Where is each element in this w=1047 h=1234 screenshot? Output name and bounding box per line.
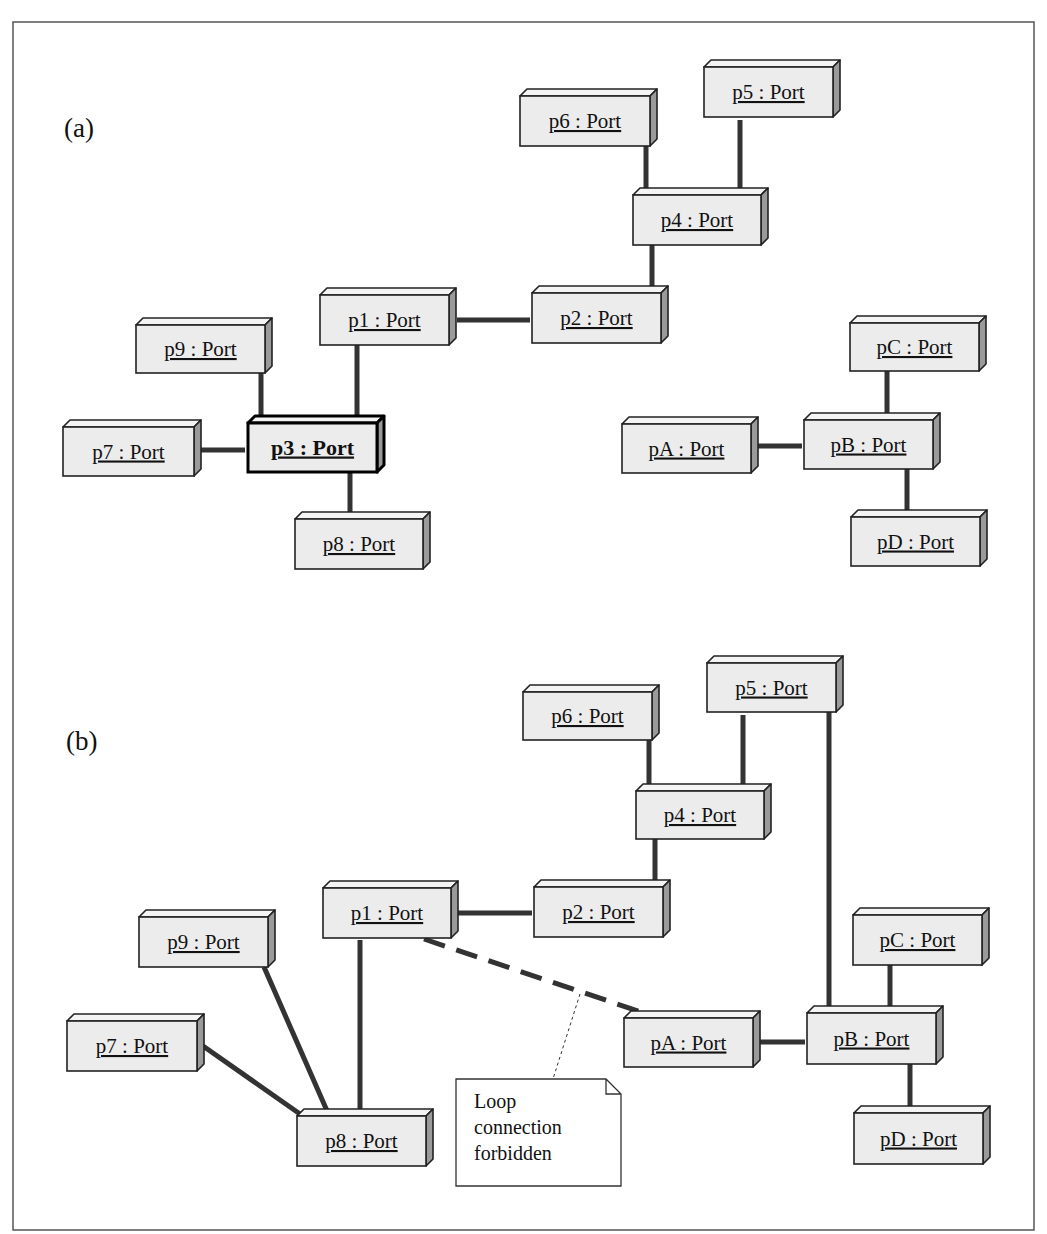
note-loop-forbidden[interactable]: Loopconnectionforbidden (456, 994, 621, 1186)
node-side-face (980, 510, 987, 566)
panel-a: (a)p6 : Portp5 : Portp4 : Portp2 : Portp… (63, 60, 987, 569)
note-text-line: connection (474, 1116, 562, 1138)
node-label: p7 : Port (96, 1034, 169, 1058)
node-side-face (197, 1014, 204, 1071)
node-label: pA : Port (651, 1031, 727, 1055)
node-side-face (933, 413, 940, 469)
panel-label: (a) (64, 113, 94, 143)
node-label: p3 : Port (271, 435, 355, 460)
node-side-face (833, 60, 840, 117)
node-label: p2 : Port (560, 306, 633, 330)
node-label: pD : Port (877, 530, 954, 554)
port-node-p8[interactable]: p8 : Port (297, 1109, 433, 1166)
link-p7-p8[interactable] (203, 1046, 300, 1114)
port-node-p3[interactable]: p3 : Port (248, 416, 384, 472)
node-side-face (661, 286, 668, 343)
node-side-face (650, 89, 657, 146)
note-anchor-line (553, 994, 580, 1079)
node-side-face (426, 1109, 433, 1166)
node-label: pB : Port (831, 433, 907, 457)
port-node-p2[interactable]: p2 : Port (534, 880, 670, 937)
node-top-face (807, 1006, 943, 1013)
node-side-face (451, 881, 458, 938)
node-side-face (751, 417, 758, 473)
node-label: p8 : Port (323, 532, 396, 556)
node-label: pA : Port (649, 437, 725, 461)
port-node-p4[interactable]: p4 : Port (636, 784, 771, 839)
port-node-pC[interactable]: pC : Port (850, 316, 986, 371)
port-node-p7[interactable]: p7 : Port (63, 420, 201, 476)
node-label: p8 : Port (325, 1129, 398, 1153)
node-label: p9 : Port (167, 930, 240, 954)
port-node-p8[interactable]: p8 : Port (295, 512, 430, 569)
port-node-pA[interactable]: pA : Port (624, 1011, 760, 1067)
node-label: pC : Port (880, 928, 956, 952)
node-top-face (850, 316, 986, 323)
node-top-face (851, 510, 987, 517)
node-label: p6 : Port (549, 109, 622, 133)
node-label: pD : Port (880, 1127, 957, 1151)
port-node-pA[interactable]: pA : Port (622, 417, 758, 473)
node-top-face (323, 881, 458, 888)
node-side-face (265, 318, 272, 373)
port-node-p5[interactable]: p5 : Port (707, 656, 843, 712)
node-side-face (753, 1011, 760, 1067)
port-node-pC[interactable]: pC : Port (853, 908, 989, 965)
port-node-pD[interactable]: pD : Port (851, 510, 987, 566)
node-side-face (836, 656, 843, 712)
node-label: p5 : Port (732, 80, 805, 104)
node-top-face (67, 1014, 204, 1021)
node-top-face (532, 286, 668, 293)
port-node-p2[interactable]: p2 : Port (532, 286, 668, 343)
panel-label: (b) (66, 726, 97, 756)
node-label: p4 : Port (664, 803, 737, 827)
uml-object-diagram: (a)p6 : Portp5 : Portp4 : Portp2 : Portp… (0, 0, 1047, 1234)
port-node-p9[interactable]: p9 : Port (136, 318, 272, 373)
node-top-face (804, 413, 940, 420)
node-top-face (854, 1106, 990, 1113)
node-side-face (982, 908, 989, 965)
node-top-face (633, 188, 768, 195)
node-side-face (268, 910, 275, 967)
node-label: p2 : Port (562, 900, 635, 924)
port-node-p4[interactable]: p4 : Port (633, 188, 768, 245)
port-node-p6[interactable]: p6 : Port (523, 685, 659, 740)
node-top-face (636, 784, 771, 791)
port-node-p7[interactable]: p7 : Port (67, 1014, 204, 1071)
node-side-face (979, 316, 986, 371)
node-top-face (320, 288, 456, 295)
port-node-pD[interactable]: pD : Port (854, 1106, 990, 1164)
forbidden-link-p1-pA[interactable] (424, 939, 650, 1015)
node-label: pB : Port (834, 1027, 910, 1051)
node-side-face (983, 1106, 990, 1164)
node-top-face (624, 1011, 760, 1018)
node-top-face (63, 420, 201, 427)
node-label: p1 : Port (348, 308, 421, 332)
node-side-face (423, 512, 430, 569)
node-label: p6 : Port (551, 704, 624, 728)
node-top-face (520, 89, 657, 96)
node-top-face (534, 880, 670, 887)
node-label: p1 : Port (351, 901, 424, 925)
node-label: pC : Port (877, 335, 953, 359)
node-top-face (136, 318, 272, 325)
node-label: p7 : Port (92, 440, 165, 464)
port-node-p1[interactable]: p1 : Port (320, 288, 456, 345)
link-p9-p8[interactable] (264, 967, 328, 1113)
node-top-face (297, 1109, 433, 1116)
port-node-p9[interactable]: p9 : Port (139, 910, 275, 967)
node-side-face (764, 784, 771, 839)
port-node-pB[interactable]: pB : Port (807, 1006, 943, 1064)
note-text-line: forbidden (474, 1142, 552, 1164)
port-node-p6[interactable]: p6 : Port (520, 89, 657, 146)
node-top-face (707, 656, 843, 663)
node-side-face (194, 420, 201, 476)
node-side-face (663, 880, 670, 937)
node-label: p4 : Port (661, 208, 734, 232)
port-node-p5[interactable]: p5 : Port (704, 60, 840, 117)
node-label: p5 : Port (735, 676, 808, 700)
port-node-pB[interactable]: pB : Port (804, 413, 940, 469)
note-text-line: Loop (474, 1090, 516, 1113)
port-node-p1[interactable]: p1 : Port (323, 881, 458, 938)
node-side-face (449, 288, 456, 345)
